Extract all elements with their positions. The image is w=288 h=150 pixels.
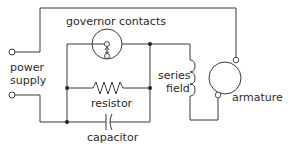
resistor-icon	[93, 82, 123, 94]
circuit-diagram: governor contacts power supply resistor …	[0, 0, 288, 150]
junction-dot	[65, 120, 69, 124]
junction-dot	[65, 86, 69, 90]
capacitor-label: capacitor	[87, 131, 139, 144]
junction-dot	[148, 86, 152, 90]
series-field-label-line1: series	[158, 69, 191, 82]
power-terminal-upper	[9, 49, 15, 55]
power-supply-label-line2: supply	[10, 74, 47, 87]
series-field-label-line2: field	[166, 82, 190, 95]
governor-contacts-icon	[92, 29, 122, 59]
resistor-label: resistor	[91, 97, 133, 110]
field-bottom-wire	[190, 96, 218, 120]
power-terminal-lower	[9, 92, 15, 98]
field-top-wire	[150, 44, 190, 60]
junction-dot	[148, 42, 152, 46]
power-supply-label-line1: power	[10, 61, 44, 74]
armature-label: armature	[232, 91, 283, 104]
governor-contacts-label: governor contacts	[66, 15, 166, 28]
terminal-lower-wire	[15, 95, 67, 122]
series-field-coil-icon	[190, 60, 195, 96]
